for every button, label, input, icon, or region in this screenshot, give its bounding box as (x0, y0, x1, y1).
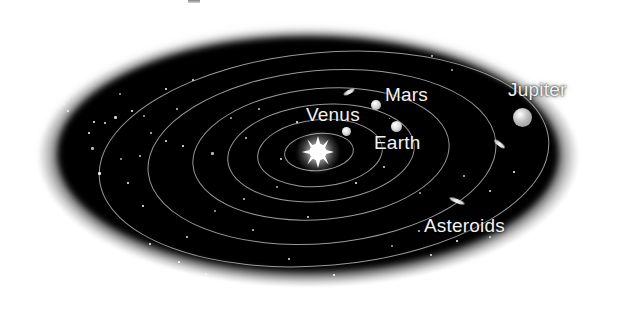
label-jupiter: Jupiter (508, 80, 566, 99)
solar-system-figure: Venus Mars Earth Jupiter Asteroids (0, 0, 617, 309)
background-star (139, 155, 141, 157)
background-star (211, 152, 214, 155)
background-star (576, 181, 578, 183)
background-star (104, 122, 106, 124)
background-star (288, 258, 290, 260)
background-star (131, 110, 133, 112)
background-star (371, 287, 373, 289)
background-star (431, 55, 433, 57)
background-star (507, 253, 509, 255)
background-star (463, 175, 465, 177)
background-star (60, 90, 63, 93)
background-star (419, 192, 421, 194)
background-star (40, 121, 43, 124)
background-star (182, 145, 184, 147)
background-star (489, 190, 491, 192)
background-star (418, 230, 420, 232)
background-star (245, 137, 247, 139)
background-star (91, 147, 94, 150)
background-star (127, 182, 129, 184)
background-star (571, 128, 573, 130)
background-star (178, 261, 180, 263)
background-star (389, 118, 390, 119)
background-star (528, 240, 530, 242)
background-star (192, 79, 194, 81)
background-star (333, 274, 335, 276)
background-star (582, 154, 584, 156)
planet-venus (342, 127, 351, 136)
background-star (205, 273, 207, 275)
background-star (120, 158, 122, 160)
background-star (513, 171, 515, 173)
background-star (186, 236, 188, 238)
background-star (150, 132, 152, 134)
background-star (248, 285, 250, 287)
background-star (451, 69, 453, 71)
background-star (280, 158, 282, 160)
background-star (430, 254, 432, 256)
background-star (566, 203, 568, 205)
planet-earth (391, 121, 402, 132)
background-star (82, 79, 85, 82)
background-star (149, 243, 151, 245)
background-star (165, 140, 167, 142)
sun-starburst-icon (302, 136, 334, 168)
background-star (230, 117, 232, 119)
background-star (143, 115, 145, 117)
planet-jupiter (513, 108, 532, 127)
background-star (142, 205, 144, 207)
background-star (104, 51, 107, 54)
background-star (258, 108, 260, 110)
background-star (63, 103, 65, 105)
background-star (252, 229, 254, 231)
background-star (489, 236, 491, 238)
background-star (114, 116, 117, 119)
background-star (383, 166, 385, 168)
background-star (165, 88, 167, 90)
background-star (569, 246, 571, 248)
background-star (44, 92, 46, 94)
background-star (307, 216, 309, 218)
background-star (313, 300, 315, 302)
background-star (36, 82, 39, 85)
background-star (93, 121, 95, 123)
cropped-caption-remnant (188, 0, 200, 3)
background-star (98, 172, 101, 175)
background-star (88, 132, 90, 134)
background-star (214, 210, 216, 212)
background-star (296, 121, 298, 123)
sun (297, 131, 339, 173)
background-star (471, 258, 473, 260)
background-star (540, 72, 542, 74)
background-star (276, 186, 278, 188)
background-star (553, 226, 555, 228)
background-star (176, 108, 178, 110)
background-star (355, 182, 357, 184)
background-star (456, 240, 458, 242)
background-star (348, 296, 350, 298)
background-star (391, 245, 393, 247)
label-earth: Earth (374, 133, 420, 152)
background-star (243, 198, 245, 200)
label-mars: Mars (385, 85, 428, 104)
label-asteroids: Asteroids (424, 216, 505, 235)
background-star (67, 110, 69, 112)
planet-mars (371, 100, 381, 110)
background-star (119, 93, 121, 95)
label-venus: Venus (306, 105, 360, 124)
